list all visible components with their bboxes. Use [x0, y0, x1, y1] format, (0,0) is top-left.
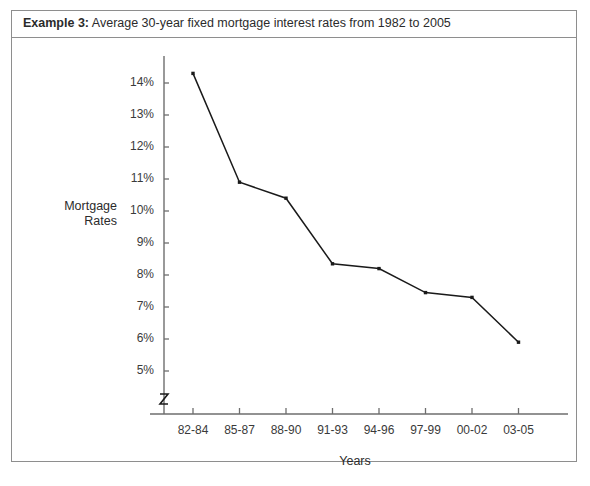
- y-axis-title: Mortgage Rates: [64, 199, 117, 229]
- data-point: [517, 341, 520, 344]
- y-tick-label: 13%: [130, 107, 154, 121]
- caption-label: Example 3:: [23, 16, 89, 30]
- y-tick-label: 7%: [137, 299, 154, 313]
- y-tick-label: 10%: [130, 203, 154, 217]
- y-tick-label: 5%: [137, 363, 154, 377]
- caption-body: Average 30-year fixed mortgage interest …: [92, 16, 451, 30]
- y-axis-title-line1: Mortgage: [64, 199, 117, 214]
- y-tick-label: 11%: [131, 171, 154, 185]
- data-point: [284, 197, 287, 200]
- y-tick-label: 12%: [130, 139, 154, 153]
- data-point: [191, 72, 194, 75]
- caption-row: Example 3: Average 30-year fixed mortgag…: [12, 11, 576, 38]
- figure-caption: Example 3: Average 30-year fixed mortgag…: [23, 16, 451, 30]
- data-point: [470, 296, 473, 299]
- chart-series-line: [193, 73, 519, 342]
- chart-plot-area: 14%13%12%11%10%9%8%7%6%5% 82-8485-8788-9…: [12, 38, 576, 462]
- figure-frame: Example 3: Average 30-year fixed mortgag…: [11, 10, 577, 462]
- y-tick-label: 6%: [137, 331, 154, 345]
- y-tick-label: 9%: [137, 235, 154, 249]
- y-tick-label: 8%: [137, 267, 154, 281]
- y-axis-title-line2: Rates: [64, 214, 117, 229]
- x-tick-label: 03-05: [489, 423, 549, 437]
- chart-axes: [150, 56, 568, 414]
- x-axis-title: Years: [12, 454, 578, 468]
- chart-data-markers: [191, 72, 520, 344]
- data-point: [377, 267, 380, 270]
- data-point: [424, 291, 427, 294]
- data-point: [331, 262, 334, 265]
- line-chart-svg: [12, 38, 578, 462]
- y-tick-label: 14%: [130, 75, 154, 89]
- data-point: [238, 181, 241, 184]
